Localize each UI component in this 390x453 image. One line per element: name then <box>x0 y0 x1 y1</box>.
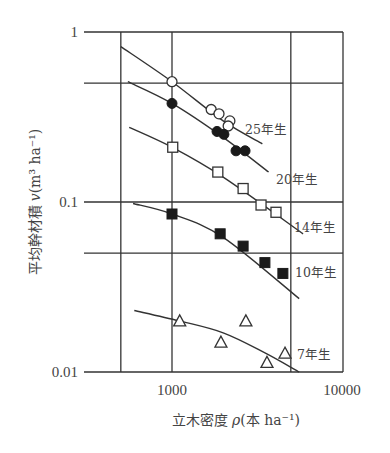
y-axis-title: 平均幹材積v(m³ ha⁻¹) <box>27 129 43 276</box>
series-label: 10年生 <box>295 265 337 280</box>
series-label: 14年生 <box>294 220 336 235</box>
x-tick-label: 1000 <box>157 382 187 398</box>
filled-circle-marker <box>231 146 241 156</box>
series-label: 7年生 <box>297 347 331 362</box>
fit-curve <box>134 311 299 372</box>
open-circle-marker <box>214 109 224 119</box>
density-volume-chart: 0.010.11100010000 25年生20年生14年生10年生7年生 立木… <box>0 0 390 453</box>
open-square-marker <box>168 142 178 152</box>
filled-circle-marker <box>240 146 250 156</box>
filled-square-marker <box>167 209 177 219</box>
y-tick-label: 0.01 <box>52 364 78 380</box>
filled-square-marker <box>278 268 288 278</box>
data-points <box>167 77 291 368</box>
open-square-marker <box>238 184 248 194</box>
series-label: 20年生 <box>276 172 318 187</box>
open-triangle-marker <box>279 347 291 358</box>
open-square-marker <box>271 207 281 217</box>
x-tick-label: 10000 <box>323 382 361 398</box>
open-square-marker <box>256 200 266 210</box>
y-tick-label: 0.1 <box>59 194 78 210</box>
open-triangle-marker <box>240 315 252 326</box>
tick-labels: 0.010.11100010000 <box>52 24 361 398</box>
y-tick-label: 1 <box>71 24 79 40</box>
fit-curve <box>121 47 263 144</box>
open-square-marker <box>213 167 223 177</box>
x-axis-title: 立木密度ρ(本 ha⁻¹) <box>172 412 300 428</box>
filled-square-marker <box>215 229 225 239</box>
filled-square-marker <box>238 241 248 251</box>
grid-lines <box>84 32 343 372</box>
filled-square-marker <box>260 258 270 268</box>
filled-circle-marker <box>167 98 177 108</box>
series-label: 25年生 <box>245 122 287 137</box>
filled-circle-marker <box>219 129 229 139</box>
open-circle-marker <box>167 77 177 87</box>
open-triangle-marker <box>261 356 273 367</box>
open-triangle-marker <box>215 336 227 347</box>
